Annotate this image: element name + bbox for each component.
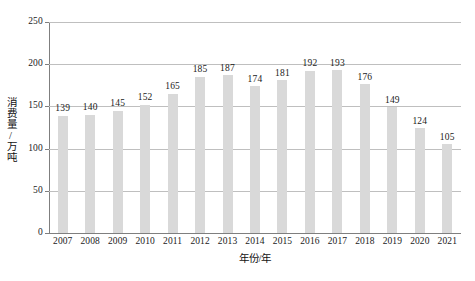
bar-series: 1391401451521651851871741811921931761491… xyxy=(49,22,461,233)
bar[interactable]: 149 xyxy=(387,107,397,233)
bar[interactable]: 140 xyxy=(85,115,95,233)
bar-value-label: 105 xyxy=(440,133,455,143)
x-tick-label: 2021 xyxy=(434,236,461,246)
bar-slot: 192 xyxy=(296,22,323,233)
bar[interactable]: 176 xyxy=(360,84,370,233)
x-tick-label: 2007 xyxy=(49,236,76,246)
bar-value-label: 176 xyxy=(357,73,372,83)
x-tick-label: 2010 xyxy=(131,236,158,246)
bar[interactable]: 124 xyxy=(415,128,425,233)
bar-value-label: 181 xyxy=(275,69,290,79)
bar[interactable]: 193 xyxy=(332,70,342,233)
bar-slot: 185 xyxy=(186,22,213,233)
bar-slot: 140 xyxy=(76,22,103,233)
x-tick-label: 2020 xyxy=(406,236,433,246)
gridline xyxy=(49,233,461,234)
x-tick-label: 2015 xyxy=(269,236,296,246)
y-tick-label: 150 xyxy=(28,102,43,112)
y-tick-label: 50 xyxy=(33,186,43,196)
x-tick-label: 2013 xyxy=(214,236,241,246)
y-axis-tick xyxy=(45,233,49,234)
bar-slot: 152 xyxy=(131,22,158,233)
bar-slot: 149 xyxy=(379,22,406,233)
x-tick-label: 2009 xyxy=(104,236,131,246)
bar-value-label: 193 xyxy=(330,59,345,69)
bar-value-label: 192 xyxy=(303,59,318,69)
x-tick-label: 2014 xyxy=(241,236,268,246)
bar-value-label: 124 xyxy=(412,117,427,127)
bar-slot: 176 xyxy=(351,22,378,233)
bar-value-label: 139 xyxy=(55,104,70,114)
x-axis-title: 年份/年 xyxy=(49,250,461,265)
y-tick-label: 200 xyxy=(28,59,43,69)
bar[interactable]: 174 xyxy=(250,86,260,233)
x-tick-label: 2018 xyxy=(351,236,378,246)
bar-value-label: 140 xyxy=(83,103,98,113)
bar[interactable]: 152 xyxy=(140,105,150,233)
bar[interactable]: 185 xyxy=(195,77,205,233)
x-tick-label: 2019 xyxy=(379,236,406,246)
bar[interactable]: 192 xyxy=(305,71,315,233)
bar-value-label: 145 xyxy=(110,99,125,109)
bar-value-label: 174 xyxy=(248,75,263,85)
bar-slot: 165 xyxy=(159,22,186,233)
bar-slot: 181 xyxy=(269,22,296,233)
bar-chart: 050100150200250 139140145152165185187174… xyxy=(0,0,475,281)
bar[interactable]: 145 xyxy=(113,111,123,233)
bar-value-label: 187 xyxy=(220,64,235,74)
bar-value-label: 165 xyxy=(165,82,180,92)
x-tick-label: 2008 xyxy=(76,236,103,246)
y-tick-label: 0 xyxy=(38,228,43,238)
bar[interactable]: 187 xyxy=(223,75,233,233)
bar-slot: 193 xyxy=(324,22,351,233)
bar[interactable]: 139 xyxy=(58,116,68,233)
x-tick-label: 2011 xyxy=(159,236,186,246)
bar-value-label: 185 xyxy=(193,65,208,75)
bar[interactable]: 105 xyxy=(442,144,452,233)
x-tick-label: 2017 xyxy=(324,236,351,246)
y-axis-title: 消费量/万吨 xyxy=(4,97,16,163)
bar-value-label: 149 xyxy=(385,96,400,106)
x-tick-label: 2012 xyxy=(186,236,213,246)
bar[interactable]: 181 xyxy=(277,80,287,233)
bar[interactable]: 165 xyxy=(168,94,178,233)
bar-slot: 187 xyxy=(214,22,241,233)
y-tick-label: 100 xyxy=(28,144,43,154)
plot-area: 050100150200250 139140145152165185187174… xyxy=(49,22,461,233)
y-tick-label: 250 xyxy=(28,17,43,27)
bar-slot: 145 xyxy=(104,22,131,233)
x-tick-labels: 2007200820092010201120122013201420152016… xyxy=(49,236,461,246)
x-tick-label: 2016 xyxy=(296,236,323,246)
bar-slot: 105 xyxy=(434,22,461,233)
bar-slot: 124 xyxy=(406,22,433,233)
bar-slot: 139 xyxy=(49,22,76,233)
bar-slot: 174 xyxy=(241,22,268,233)
bar-value-label: 152 xyxy=(138,93,153,103)
